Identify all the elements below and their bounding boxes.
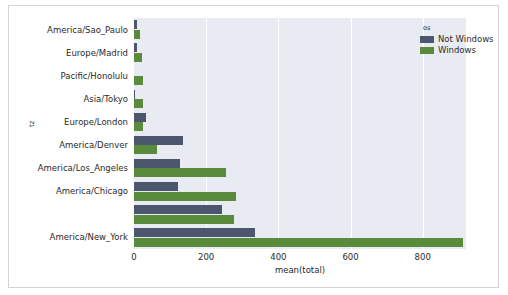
bar	[134, 238, 463, 247]
legend-item[interactable]: Windows	[420, 45, 500, 55]
x-axis-tick-label: 400	[270, 252, 286, 262]
legend-item[interactable]: Not Windows	[420, 34, 500, 44]
bar	[134, 159, 180, 168]
bar	[134, 145, 157, 154]
y-axis-title: tz	[28, 121, 36, 127]
y-axis-tick-label: Europe/Madrid	[66, 48, 128, 58]
x-axis: mean(total) 0200400600800	[134, 249, 466, 279]
legend-item-label: Not Windows	[438, 34, 494, 44]
y-axis-tick-label: Asia/Tokyo	[84, 94, 128, 104]
y-axis-tick-label: America/New_York	[50, 232, 128, 242]
bar	[134, 113, 146, 122]
bar-chart: America/Sao_PauloEurope/MadridPacific/Ho…	[0, 0, 508, 295]
bar	[134, 182, 178, 191]
bar	[134, 168, 226, 177]
x-axis-tick-label: 200	[198, 252, 214, 262]
x-axis-tick-label: 0	[131, 252, 136, 262]
bar	[134, 43, 137, 52]
y-axis-tick-label: America/Denver	[59, 140, 128, 150]
legend-title: os	[420, 24, 500, 32]
bar	[134, 192, 236, 201]
x-axis-tick-label: 600	[342, 252, 358, 262]
bar	[134, 215, 234, 224]
bar	[134, 20, 137, 29]
bar	[134, 228, 255, 237]
y-axis-tick-label: Europe/London	[64, 117, 128, 127]
y-axis-tick-label: America/Los_Angeles	[38, 163, 128, 173]
bar	[134, 53, 142, 62]
legend-swatch-icon	[420, 36, 434, 43]
y-axis-tick-label: America/Sao_Paulo	[47, 25, 128, 35]
y-axis-tick-label: Pacific/Honolulu	[60, 71, 128, 81]
gridline	[278, 18, 279, 249]
legend-item-label: Windows	[438, 45, 476, 55]
legend-swatch-icon	[420, 47, 434, 54]
bar	[134, 99, 143, 108]
bar	[134, 136, 183, 145]
bar	[134, 122, 143, 131]
bar	[134, 205, 222, 214]
plot-area	[134, 18, 466, 249]
legend-entries: Not WindowsWindows	[420, 34, 500, 55]
y-axis-tick-label: America/Chicago	[56, 186, 128, 196]
bar	[134, 76, 143, 85]
y-axis-tick-labels: America/Sao_PauloEurope/MadridPacific/Ho…	[0, 18, 128, 249]
bar	[134, 30, 140, 39]
x-axis-title: mean(total)	[275, 265, 325, 275]
x-axis-tick-label: 800	[415, 252, 431, 262]
legend: os Not WindowsWindows	[420, 24, 500, 56]
bar	[134, 90, 135, 99]
gridline	[351, 18, 352, 249]
